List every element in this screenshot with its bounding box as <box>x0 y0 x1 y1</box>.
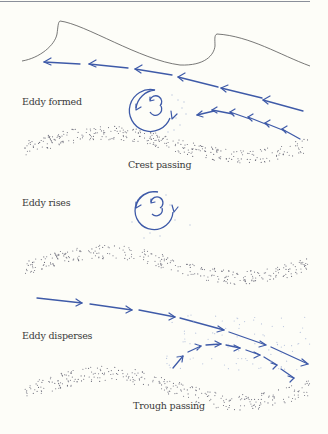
rightward-flow-arrows-lower <box>173 341 294 382</box>
leftward-flow-arrows-upper <box>44 58 303 111</box>
label-eddy-disperses: Eddy disperses <box>22 330 92 341</box>
caption-crest-passing: Crest passing <box>128 159 191 170</box>
water-surface-wave <box>22 21 310 66</box>
suspended-sediment-cloud <box>166 315 310 371</box>
sand-ripple-2 <box>25 245 308 285</box>
sand-ripple-1 <box>24 126 308 163</box>
caption-trough-passing: Trough passing <box>133 400 205 411</box>
label-eddy-rises: Eddy rises <box>22 197 70 208</box>
wave-eddy-diagram <box>0 0 328 434</box>
leftward-flow-arrows-lower <box>197 107 300 139</box>
label-eddy-formed: Eddy formed <box>22 96 82 107</box>
eddy-formed-icon <box>129 89 186 132</box>
eddy-rises-icon <box>131 192 190 239</box>
